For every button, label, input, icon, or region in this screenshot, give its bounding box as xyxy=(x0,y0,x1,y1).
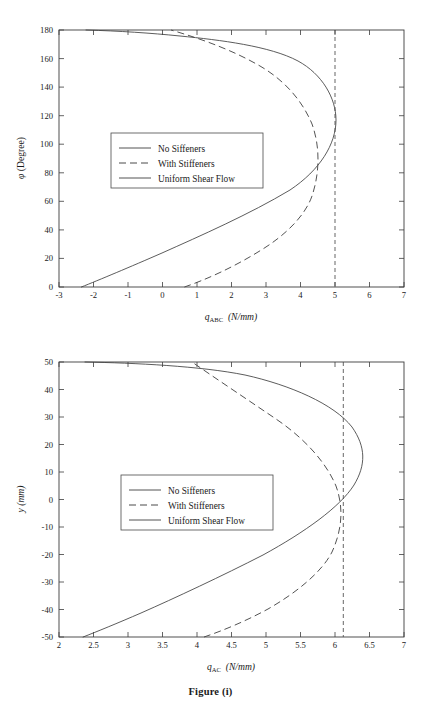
x-tick-label: 5 xyxy=(333,290,337,300)
y-axis-title-bottom: y (mm) xyxy=(15,486,27,514)
legend-label-uniform-shear-flow: Uniform Shear Flow xyxy=(158,174,235,184)
x-tick-label: 2 xyxy=(229,290,233,300)
y-tick-label: 40 xyxy=(44,225,53,235)
legend-label-no-stiffeners: No Siffeners xyxy=(158,144,205,154)
x-tick-label: 4 xyxy=(298,290,303,300)
y-tick-label: 40 xyxy=(44,385,53,395)
legend-bottom: No Siffeners With Stiffeners Uniform She… xyxy=(121,475,273,530)
y-tick-label: 10 xyxy=(44,467,53,477)
x-tick-label: 0 xyxy=(160,290,164,300)
x-tick-label: 2.5 xyxy=(88,640,99,650)
legend-label-no-stiffeners: No Siffeners xyxy=(168,486,215,496)
x-tick-label: 3.5 xyxy=(157,640,168,650)
x-tick-label: -2 xyxy=(90,290,97,300)
chart-qac: 2 2.5 3 3.5 4 4.5 5 5.5 6 6.5 7 xyxy=(0,352,421,682)
y-tick-label: -10 xyxy=(42,522,53,532)
x-tick-label: 6 xyxy=(367,290,372,300)
y-tick-label: -20 xyxy=(42,550,53,560)
chart-qabc: -3 -2 -1 0 1 2 3 4 5 6 7 xyxy=(0,0,421,348)
y-tick-label: 0 xyxy=(49,495,53,505)
legend-top: No Siffeners With Stiffeners Uniform She… xyxy=(111,133,263,188)
x-tick-label: -1 xyxy=(124,290,131,300)
x-axis-tick-labels-top: -3 -2 -1 0 1 2 3 4 5 6 7 xyxy=(55,290,406,300)
x-tick-label: 5 xyxy=(264,640,268,650)
x-axis-title-bottom: qAC (N/mm) xyxy=(207,661,255,673)
chart-qabc-svg: -3 -2 -1 0 1 2 3 4 5 6 7 xyxy=(0,0,421,348)
x-tick-label: 5.5 xyxy=(295,640,306,650)
x-tick-label: 3 xyxy=(126,640,130,650)
x-tick-label: 4.5 xyxy=(226,640,237,650)
y-tick-label: 100 xyxy=(40,139,53,149)
y-tick-label: 60 xyxy=(44,196,53,206)
y-tick-label: 120 xyxy=(40,111,53,121)
x-tick-label: 2 xyxy=(57,640,61,650)
y-tick-label: 180 xyxy=(40,25,53,35)
figure-container: -3 -2 -1 0 1 2 3 4 5 6 7 xyxy=(0,0,421,714)
y-tick-label: -30 xyxy=(42,577,53,587)
y-tick-label: 0 xyxy=(49,282,53,292)
y-tick-label: 50 xyxy=(44,357,53,367)
x-axis-title-top: qABC (N/mm) xyxy=(205,311,257,323)
x-tick-label: 7 xyxy=(402,640,407,650)
y-tick-label: 80 xyxy=(44,168,53,178)
y-tick-label: 30 xyxy=(44,412,53,422)
chart-qac-svg: 2 2.5 3 3.5 4 4.5 5 5.5 6 6.5 7 xyxy=(0,352,421,682)
figure-caption: Figure (i) xyxy=(0,686,421,697)
x-axis-tick-labels-bottom: 2 2.5 3 3.5 4 4.5 5 5.5 6 6.5 7 xyxy=(57,640,407,650)
y-tick-label: 160 xyxy=(40,54,53,64)
y-tick-label: -50 xyxy=(42,632,53,642)
x-tick-label: 7 xyxy=(402,290,407,300)
y-tick-label: -40 xyxy=(42,605,53,615)
y-axis-title-top: φ (Degree) xyxy=(15,137,27,179)
x-tick-label: 6 xyxy=(333,640,338,650)
y-tick-label: 20 xyxy=(44,253,53,263)
y-tick-label: 140 xyxy=(40,82,53,92)
legend-label-with-stiffeners: With Stiffeners xyxy=(158,159,215,169)
x-tick-label: 4 xyxy=(195,640,200,650)
y-axis-tick-labels-bottom: -50 -40 -30 -20 -10 0 10 20 30 40 50 xyxy=(42,357,53,642)
legend-label-uniform-shear-flow: Uniform Shear Flow xyxy=(168,516,245,526)
x-tick-label: 6.5 xyxy=(364,640,375,650)
y-axis-tick-labels-top: 0 20 40 60 80 100 120 140 160 180 xyxy=(40,25,53,292)
x-tick-label: -3 xyxy=(55,290,62,300)
x-tick-label: 3 xyxy=(264,290,268,300)
legend-label-with-stiffeners: With Stiffeners xyxy=(168,501,225,511)
y-tick-label: 20 xyxy=(44,440,53,450)
x-tick-label: 1 xyxy=(195,290,199,300)
